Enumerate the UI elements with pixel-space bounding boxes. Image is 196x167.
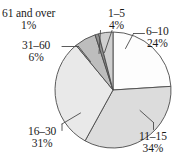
- slice-label-6-10: 6–10 24%: [146, 26, 169, 49]
- slice-label-31-60-percent: 6%: [22, 52, 50, 64]
- slice-label-16-30: 16–30 31%: [28, 126, 56, 149]
- slice-label-1-5-percent: 4%: [108, 20, 125, 32]
- slice-label-11-15-name: 11–15: [139, 131, 167, 143]
- pie-chart: 61 and over 1% 1–5 4% 31–60 6% 6–10 24% …: [0, 0, 196, 167]
- slice-label-6-10-name: 6–10: [146, 26, 169, 38]
- slice-label-1-5-name: 1–5: [108, 8, 125, 20]
- slice-label-11-15-percent: 34%: [139, 143, 167, 155]
- slice-label-16-30-name: 16–30: [28, 126, 56, 138]
- slice-label-11-15: 11–15 34%: [139, 131, 167, 154]
- slice-label-61-and-over-name: 61 and over: [2, 8, 55, 20]
- slice-label-6-10-percent: 24%: [146, 38, 169, 50]
- slice-label-61-and-over-percent: 1%: [2, 20, 55, 32]
- slice-label-31-60: 31–60 6%: [22, 40, 50, 63]
- slice-label-61-and-over: 61 and over 1%: [2, 8, 55, 31]
- slice-label-16-30-percent: 31%: [28, 138, 56, 150]
- slice-label-1-5: 1–5 4%: [108, 8, 125, 31]
- slice-label-31-60-name: 31–60: [22, 40, 50, 52]
